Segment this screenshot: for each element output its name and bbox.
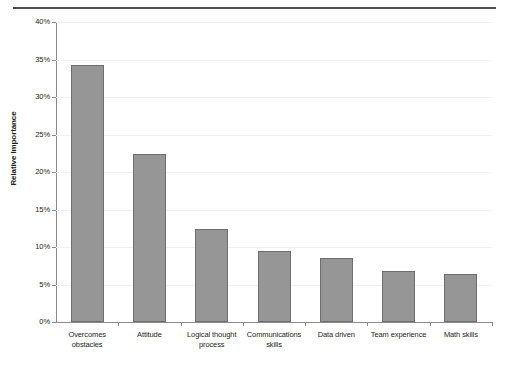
x-tick-mark bbox=[118, 322, 119, 326]
gridline bbox=[56, 22, 492, 23]
x-axis-label-line: obstacles bbox=[56, 340, 118, 350]
x-axis-label-line: Attitude bbox=[118, 330, 180, 340]
plot-area bbox=[56, 22, 492, 322]
x-tick-mark bbox=[367, 322, 368, 326]
y-tick-label: 15% bbox=[10, 206, 50, 214]
y-tick-label: 25% bbox=[10, 131, 50, 139]
y-tick-label: 40% bbox=[10, 18, 50, 26]
x-axis-label-line: Data driven bbox=[305, 330, 367, 340]
x-tick-mark bbox=[305, 322, 306, 326]
x-tick-mark bbox=[492, 322, 493, 326]
x-axis-label: Communicationsskills bbox=[243, 330, 305, 349]
bar[interactable] bbox=[195, 229, 228, 322]
bar-chart-figure: Relative Importance 0%5%10%15%20%25%30%3… bbox=[0, 0, 509, 366]
bar[interactable] bbox=[71, 65, 104, 322]
bar[interactable] bbox=[258, 251, 291, 322]
y-tick-label: 35% bbox=[10, 56, 50, 64]
gridline bbox=[56, 172, 492, 173]
x-axis-label-line: Team experience bbox=[367, 330, 429, 340]
x-tick-mark bbox=[243, 322, 244, 326]
y-tick-label: 30% bbox=[10, 93, 50, 101]
x-axis-label: Math skills bbox=[430, 330, 492, 340]
x-tick-mark bbox=[181, 322, 182, 326]
x-axis-label-line: Overcomes bbox=[56, 330, 118, 340]
x-axis-label: Data driven bbox=[305, 330, 367, 340]
x-axis-line bbox=[56, 322, 492, 323]
y-tick-mark bbox=[52, 322, 56, 323]
y-tick-label: 20% bbox=[10, 168, 50, 176]
bar[interactable] bbox=[444, 274, 477, 322]
bar[interactable] bbox=[382, 271, 415, 322]
gridline bbox=[56, 60, 492, 61]
x-axis-label-line: Math skills bbox=[430, 330, 492, 340]
gridline bbox=[56, 247, 492, 248]
top-horizontal-rule bbox=[13, 7, 496, 9]
x-axis-label-line: Communications bbox=[243, 330, 305, 340]
x-axis-label-line: process bbox=[181, 340, 243, 350]
x-axis-label: Attitude bbox=[118, 330, 180, 340]
x-tick-mark bbox=[430, 322, 431, 326]
x-axis-label: Logical thoughtprocess bbox=[181, 330, 243, 349]
gridline bbox=[56, 135, 492, 136]
bar[interactable] bbox=[320, 258, 353, 322]
x-axis-label: Team experience bbox=[367, 330, 429, 340]
x-axis-label-line: skills bbox=[243, 340, 305, 350]
y-tick-label: 10% bbox=[10, 243, 50, 251]
gridline bbox=[56, 97, 492, 98]
y-tick-label: 5% bbox=[10, 281, 50, 289]
x-axis-label-line: Logical thought bbox=[181, 330, 243, 340]
y-tick-label: 0% bbox=[10, 318, 50, 326]
x-axis-label: Overcomesobstacles bbox=[56, 330, 118, 349]
bar[interactable] bbox=[133, 154, 166, 322]
gridline bbox=[56, 210, 492, 211]
y-axis-ticks: 0%5%10%15%20%25%30%35%40% bbox=[0, 0, 50, 366]
